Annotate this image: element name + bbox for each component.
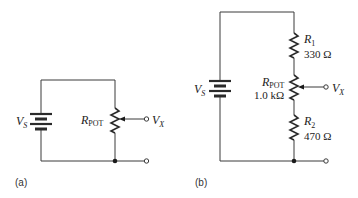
label-vx-b: VX: [332, 81, 345, 97]
circuit-figure: VS RPOT VX (a) VS R1 3: [0, 0, 358, 198]
label-r2: R2: [303, 114, 315, 130]
wiper-arrow-icon-a: [119, 117, 125, 122]
wire-a-bottom-loop: [41, 130, 115, 161]
label-rpot-b: RPOT: [261, 75, 285, 90]
circuit-a: VS RPOT VX (a): [15, 80, 165, 188]
value-r1: 330 Ω: [304, 48, 331, 60]
label-vs-b: VS: [194, 82, 205, 98]
junction-dot-b: [292, 159, 297, 164]
terminal-vx-b: [324, 85, 328, 89]
label-rpot-a: RPOT: [80, 113, 104, 128]
battery-icon-b: [209, 81, 231, 96]
label-r1: R1: [303, 32, 315, 48]
resistor-r1-icon: [290, 33, 298, 58]
caption-a: (a): [15, 177, 27, 188]
wire-b-top-loop: [220, 12, 294, 81]
potentiometer-icon-b: [290, 75, 298, 100]
wire-b-bottom-loop: [220, 97, 294, 161]
terminal-vx-a: [144, 117, 148, 121]
resistor-r2-icon: [290, 115, 298, 140]
caption-b: (b): [195, 177, 207, 188]
wire-a-top-loop: [41, 80, 115, 113]
terminal-ground-b: [324, 159, 328, 163]
terminal-ground-a: [144, 159, 148, 163]
value-r2: 470 Ω: [304, 130, 331, 142]
label-vs-a: VS: [16, 114, 27, 130]
circuit-b: VS R1 330 Ω RPOT 1.0 kΩ R2 470 Ω VX (b): [194, 12, 345, 188]
potentiometer-icon-a: [111, 108, 119, 133]
value-rpot: 1.0 kΩ: [254, 89, 284, 101]
wiper-arrow-icon-b: [298, 85, 304, 90]
junction-dot-a: [113, 159, 118, 164]
battery-icon-a: [30, 114, 52, 129]
label-vx-a: VX: [152, 113, 165, 129]
